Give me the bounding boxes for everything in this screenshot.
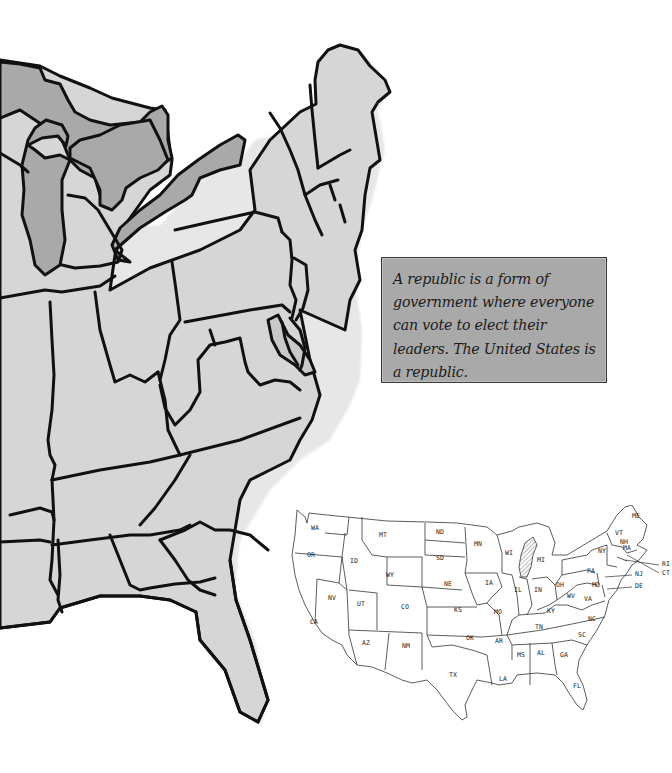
state-label-nd: ND	[436, 528, 444, 536]
state-label-vt: VT	[615, 529, 623, 537]
state-label-tn: TN	[535, 623, 543, 631]
state-label-id: ID	[350, 557, 358, 565]
state-label-nc: NC	[588, 615, 596, 623]
state-label-ma: MA	[623, 544, 631, 552]
state-label-or: OR	[307, 551, 315, 559]
state-label-ct: CT	[662, 569, 670, 577]
state-label-fl: FL	[573, 682, 581, 690]
state-label-ny: NY	[598, 547, 606, 555]
state-label-sc: SC	[578, 631, 586, 639]
state-label-az: AZ	[362, 639, 370, 647]
republic-definition-callout: A republic is a form of government where…	[381, 257, 607, 383]
state-label-me: ME	[632, 512, 640, 520]
us-outline	[292, 505, 647, 720]
state-label-co: CO	[401, 603, 409, 611]
state-label-la: LA	[499, 675, 507, 683]
state-label-ky: KY	[547, 607, 555, 615]
state-label-mn: MN	[474, 540, 482, 548]
state-label-pa: PA	[587, 567, 595, 575]
state-label-ga: GA	[560, 651, 568, 659]
state-label-de: DE	[635, 582, 643, 590]
state-label-ut: UT	[357, 600, 365, 608]
state-label-md: MD	[592, 581, 600, 589]
state-label-ks: KS	[454, 606, 462, 614]
state-label-ms: MS	[517, 651, 525, 659]
state-label-il: IL	[514, 586, 522, 594]
state-label-al: AL	[537, 649, 545, 657]
state-label-ia: IA	[485, 579, 493, 587]
state-label-oh: OH	[556, 581, 564, 589]
state-label-ok: OK	[466, 634, 474, 642]
state-label-wa: WA	[311, 524, 319, 532]
callout-text: A republic is a form of government where…	[393, 268, 598, 384]
state-label-mi: MI	[537, 556, 545, 564]
state-label-nm: NM	[402, 642, 410, 650]
us-reference-map: WAORCAIDNVMTWYUTAZCONMNDSDNEKSOKTXMNIAMO…	[287, 505, 672, 735]
state-label-mo: MO	[494, 608, 502, 616]
state-label-ne: NE	[444, 580, 452, 588]
state-label-va: VA	[584, 595, 592, 603]
state-label-wi: WI	[505, 549, 513, 557]
state-label-nv: NV	[328, 594, 336, 602]
state-label-sd: SD	[436, 554, 444, 562]
state-label-wv: WV	[567, 592, 575, 600]
state-label-wy: WY	[386, 571, 394, 579]
state-label-nj: NJ	[635, 570, 643, 578]
state-label-ri: RI	[662, 560, 670, 568]
state-label-ca: CA	[310, 618, 318, 626]
state-label-mt: MT	[379, 531, 387, 539]
state-label-in: IN	[534, 586, 542, 594]
state-label-tx: TX	[449, 671, 457, 679]
state-label-ar: AR	[495, 637, 503, 645]
